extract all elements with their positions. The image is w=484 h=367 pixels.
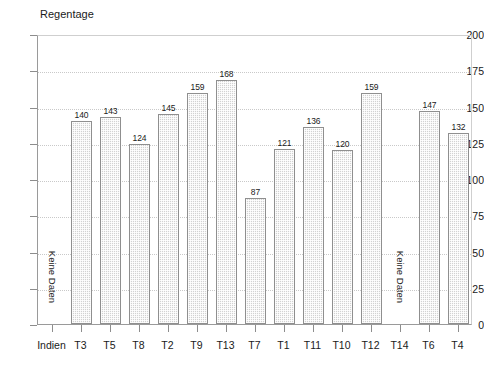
bar[interactable]: [332, 150, 353, 324]
y-axis-tick-mark: [30, 325, 37, 326]
x-axis-tick-label: T14: [385, 340, 414, 351]
y-axis-tick-mark: [30, 35, 37, 36]
bar[interactable]: [71, 121, 92, 324]
x-axis-tick-mark: [255, 325, 256, 332]
plot-area: Keine Daten14014312414515916887121136120…: [37, 35, 472, 325]
y-axis-tick-mark: [30, 108, 37, 109]
bar[interactable]: [303, 127, 324, 324]
x-axis-tick-label: T9: [182, 340, 211, 351]
bar[interactable]: [419, 111, 440, 324]
bar[interactable]: [274, 149, 295, 324]
bar-value-label: 143: [96, 107, 125, 116]
bar-value-label: 87: [241, 188, 270, 197]
x-axis-tick-mark: [168, 325, 169, 332]
bar[interactable]: [187, 93, 208, 324]
x-axis-tick-label: T1: [269, 340, 298, 351]
no-data-label: Keine Daten: [47, 251, 57, 303]
x-axis-tick-label: T7: [240, 340, 269, 351]
bar-value-label: 168: [212, 70, 241, 79]
x-axis-tick-mark: [110, 325, 111, 332]
x-axis-tick-mark: [139, 325, 140, 332]
x-axis-tick-label: T6: [414, 340, 443, 351]
y-axis-tick-mark: [30, 180, 37, 181]
x-axis-tick-mark: [400, 325, 401, 332]
bar-value-label: 159: [357, 83, 386, 92]
x-axis-tick-mark: [197, 325, 198, 332]
x-axis-tick-mark: [342, 325, 343, 332]
x-axis-tick-label: T13: [211, 340, 240, 351]
x-axis-tick-label: T5: [95, 340, 124, 351]
bar-value-label: 120: [328, 140, 357, 149]
y-axis-tick-mark: [30, 71, 37, 72]
bar[interactable]: [216, 80, 237, 324]
x-axis-tick-mark: [429, 325, 430, 332]
y-axis-tick-mark: [30, 289, 37, 290]
bar[interactable]: [158, 114, 179, 324]
x-axis-tick-label: T2: [153, 340, 182, 351]
x-axis-tick-mark: [81, 325, 82, 332]
no-data-cell: Keine Daten: [42, 34, 63, 324]
no-data-label: Keine Daten: [395, 251, 405, 303]
x-axis-tick-label: Indien: [37, 340, 66, 351]
x-axis-tick-label: T8: [124, 340, 153, 351]
x-axis-tick-label: T12: [356, 340, 385, 351]
x-axis-tick-mark: [313, 325, 314, 332]
x-axis-tick-mark: [458, 325, 459, 332]
x-axis-tick-mark: [284, 325, 285, 332]
bar-value-label: 136: [299, 117, 328, 126]
x-axis-tick-label: T10: [327, 340, 356, 351]
y-axis-tick-mark: [30, 216, 37, 217]
x-axis-tick-label: T3: [66, 340, 95, 351]
bar-value-label: 145: [154, 104, 183, 113]
bar-value-label: 159: [183, 83, 212, 92]
x-axis-tick-label: T4: [443, 340, 472, 351]
bar[interactable]: [361, 93, 382, 324]
bar-value-label: 132: [444, 123, 473, 132]
no-data-cell: Keine Daten: [390, 34, 411, 324]
x-axis-tick-mark: [52, 325, 53, 332]
bar[interactable]: [245, 198, 266, 324]
bar-value-label: 124: [125, 134, 154, 143]
y-axis-tick-mark: [30, 144, 37, 145]
y-axis-tick-mark: [30, 253, 37, 254]
bar-value-label: 147: [415, 101, 444, 110]
bar-value-label: 140: [67, 111, 96, 120]
bar[interactable]: [100, 117, 121, 324]
bar-value-label: 121: [270, 139, 299, 148]
bar[interactable]: [129, 144, 150, 324]
bar-series: Keine Daten14014312414515916887121136120…: [38, 36, 471, 324]
y-axis-title: Regentage: [40, 8, 94, 20]
x-axis-tick-label: T11: [298, 340, 327, 351]
x-axis-tick-mark: [371, 325, 372, 332]
bar-chart: Regentage 0255075100125150175200 Keine D…: [0, 0, 484, 367]
x-axis-tick-mark: [226, 325, 227, 332]
bar[interactable]: [448, 133, 469, 324]
